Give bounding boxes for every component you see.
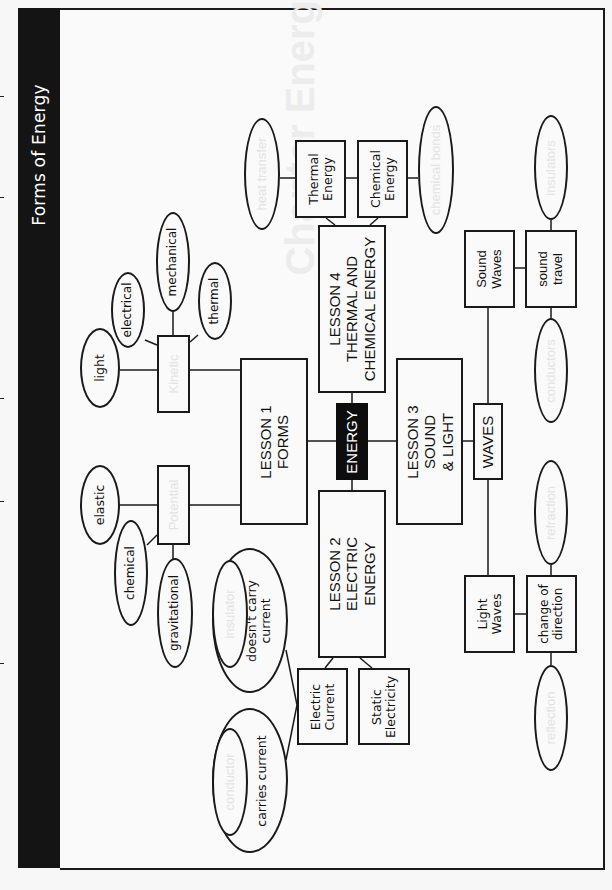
- oval-conductor-term[interactable]: conductor: [212, 728, 248, 836]
- lesson2-box: LESSON 2 ELECTRIC ENERGY: [318, 490, 386, 658]
- lesson3-label: LESSON 3 SOUND & LIGHT: [404, 405, 456, 478]
- oval-thermal: thermal: [198, 262, 232, 340]
- electric-current-box: Electric Current: [297, 668, 348, 745]
- oval-chemical: chemical: [114, 520, 148, 626]
- kinetic-box[interactable]: Kinetic: [157, 335, 190, 413]
- oval-gravitational: gravitational: [157, 558, 193, 668]
- lesson4-box: LESSON 4 THERMAL AND CHEMICAL ENERGY: [318, 225, 386, 393]
- light-waves-box: Light Waves: [464, 575, 515, 653]
- oval-mechanical: mechanical: [156, 212, 190, 312]
- chemical-energy-box: Chemical Energy: [357, 140, 408, 218]
- oval-chemical-bonds[interactable]: chemical bonds: [418, 106, 454, 234]
- static-electricity-box: Static Electricity: [358, 668, 410, 745]
- sound-travel-box: sound travel: [525, 230, 577, 308]
- lesson3-box: LESSON 3 SOUND & LIGHT: [396, 358, 463, 525]
- oval-elastic: elastic: [80, 465, 120, 545]
- change-of-direction-box: change of direction: [526, 575, 577, 653]
- potential-box[interactable]: Potential: [157, 465, 190, 545]
- oval-insulator-term[interactable]: insulator: [212, 560, 248, 668]
- sound-waves-box: Sound Waves: [464, 230, 515, 308]
- oval-electrical: electrical: [111, 272, 145, 348]
- potential-label: Potential: [166, 480, 181, 531]
- lesson2-label: LESSON 2 ELECTRIC ENERGY: [326, 537, 378, 611]
- oval-light: light: [80, 328, 120, 408]
- oval-refraction[interactable]: refraction: [534, 460, 568, 565]
- energy-label: ENERGY: [343, 410, 360, 473]
- waves-box: WAVES: [473, 403, 503, 480]
- energy-center-node: ENERGY: [336, 403, 368, 480]
- lesson4-label: LESSON 4 THERMAL AND CHEMICAL ENERGY: [326, 237, 378, 381]
- thermal-energy-box: Thermal Energy: [295, 140, 346, 218]
- kinetic-label: Kinetic: [166, 354, 181, 393]
- oval-heat-transfer[interactable]: heat transfer: [244, 118, 280, 230]
- oval-reflection[interactable]: reflection: [534, 665, 568, 771]
- oval-insulators[interactable]: insulators: [534, 115, 568, 220]
- lesson1-box: LESSON 1 FORMS: [240, 358, 308, 525]
- lesson1-label: LESSON 1 FORMS: [257, 405, 292, 478]
- oval-conductors[interactable]: conductors: [534, 318, 568, 423]
